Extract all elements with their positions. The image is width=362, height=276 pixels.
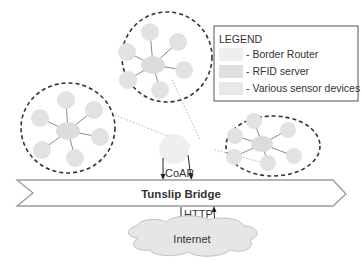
sensor-node bbox=[57, 91, 75, 109]
legend-label-sensor-devices: - Various sensor devices bbox=[246, 82, 360, 94]
tunslip-bridge-label: Tunslip Bridge bbox=[141, 188, 221, 200]
sensor-node bbox=[227, 128, 243, 144]
legend-swatch-border-router bbox=[219, 48, 243, 61]
legend-title: LEGEND bbox=[219, 33, 263, 45]
sensor-node bbox=[119, 71, 137, 89]
sensor-node bbox=[280, 122, 296, 138]
legend-label-border-router: - Border Router bbox=[246, 48, 319, 60]
sensor-node bbox=[246, 113, 262, 129]
sensor-node bbox=[91, 128, 109, 146]
sensor-node bbox=[226, 149, 242, 165]
legend-label-rfid-server: - RFID server bbox=[246, 65, 310, 77]
sensor-node bbox=[31, 109, 49, 127]
coap-label: CoAP bbox=[165, 167, 194, 179]
left-cluster bbox=[21, 83, 115, 173]
sensor-node bbox=[169, 33, 187, 51]
sensor-node bbox=[151, 81, 169, 99]
legend: LEGEND - Border Router - RFID server - V… bbox=[214, 26, 360, 101]
rfid-server-node bbox=[141, 56, 165, 74]
sensor-node bbox=[260, 155, 276, 171]
rfid-server-node bbox=[251, 136, 273, 152]
sensor-node bbox=[286, 148, 302, 164]
legend-swatch-rfid-server bbox=[219, 65, 243, 78]
sensor-node bbox=[118, 43, 136, 61]
sensor-node bbox=[66, 149, 84, 167]
sensor-node bbox=[85, 101, 103, 119]
legend-swatch-sensor-devices bbox=[219, 82, 243, 95]
network-diagram: CoAP Tunslip Bridge HTTP Internet LEGEND… bbox=[0, 0, 362, 276]
top-cluster bbox=[118, 12, 212, 102]
sensor-node bbox=[175, 61, 193, 79]
rfid-server-node bbox=[56, 122, 80, 140]
right-cluster bbox=[226, 113, 320, 176]
sensor-node bbox=[141, 23, 159, 41]
internet-label: Internet bbox=[173, 233, 210, 245]
sensor-node bbox=[33, 141, 51, 159]
